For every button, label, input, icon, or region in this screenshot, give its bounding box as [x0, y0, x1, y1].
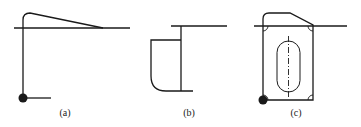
- panel-c: [254, 13, 347, 105]
- diagram-canvas: (a) (b) (c): [0, 0, 361, 127]
- panel-a-pivot-dot: [19, 94, 28, 103]
- panel-b: [151, 26, 227, 91]
- panel-a: [14, 13, 130, 103]
- panel-b-bracket: [151, 40, 193, 91]
- panel-c-corner-arc-tl: [263, 26, 268, 31]
- panel-b-label: (b): [183, 107, 195, 119]
- panel-c-corner-arc-tr: [308, 26, 313, 31]
- panel-a-profile: [23, 13, 103, 98]
- panel-c-pivot-dot: [259, 96, 268, 105]
- panel-c-label: (c): [290, 107, 301, 119]
- panel-c-corner-arc-br: [308, 95, 313, 100]
- panel-a-label: (a): [59, 107, 70, 119]
